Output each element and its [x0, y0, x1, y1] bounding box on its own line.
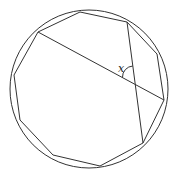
angle-label: x: [118, 62, 125, 75]
geometry-diagram: x: [0, 0, 179, 174]
diagonal-2: [127, 22, 143, 143]
inscribed-decagon: [14, 12, 164, 166]
diagonal-1: [38, 32, 164, 100]
